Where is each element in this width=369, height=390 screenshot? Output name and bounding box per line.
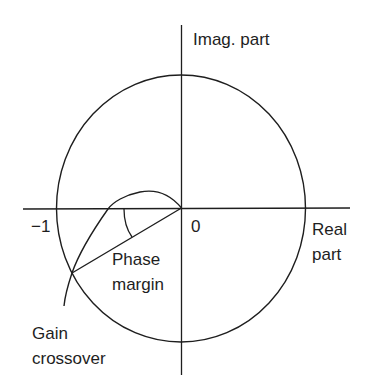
tick-label-origin: 0 [191, 218, 200, 235]
gain-crossover-label-line2: crossover [32, 350, 106, 367]
real-axis-label-line1: Real [312, 221, 347, 238]
phase-margin-label-line2: margin [112, 276, 164, 293]
gain-crossover-label-line1: Gain [32, 325, 68, 342]
phase-margin-arc [124, 209, 132, 237]
imaginary-axis-label: Imag. part [193, 31, 270, 48]
tick-label-minus-one: −1 [31, 218, 50, 235]
real-axis-label-line2: part [312, 246, 341, 263]
real-axis [23, 208, 350, 209]
phase-margin-label-line1: Phase [112, 251, 160, 268]
